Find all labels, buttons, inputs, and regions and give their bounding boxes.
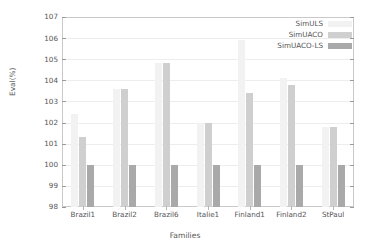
bar: [87, 165, 94, 207]
y-tick-label: 99: [18, 182, 58, 189]
legend-label: SimUACO: [289, 30, 323, 39]
x-axis-title: Families: [0, 231, 370, 240]
bar: [296, 165, 303, 207]
legend-item: SimUACO: [289, 30, 352, 39]
y-tick-label: 107: [18, 13, 58, 20]
legend-item: SimUACO-LS: [277, 41, 352, 50]
bar: [330, 127, 337, 207]
bar: [338, 165, 345, 207]
bar: [213, 165, 220, 207]
bar: [113, 89, 120, 207]
bar: [238, 40, 245, 207]
legend-swatch: [328, 21, 352, 27]
y-tick-label: 98: [18, 203, 58, 210]
y-tick-label: 101: [18, 140, 58, 147]
y-tick-mark: [62, 207, 66, 208]
y-tick-mark: [350, 207, 354, 208]
y-tick-label: 103: [18, 98, 58, 105]
bar: [129, 165, 136, 207]
bar: [205, 123, 212, 207]
legend: SimULSSimUACOSimUACO-LS: [277, 19, 352, 50]
bar: [121, 89, 128, 207]
legend-swatch: [328, 32, 352, 38]
bar: [163, 63, 170, 207]
bar: [246, 93, 253, 207]
y-tick-label: 105: [18, 56, 58, 63]
bar: [71, 114, 78, 207]
y-tick-label: 100: [18, 161, 58, 168]
legend-label: SimULS: [296, 19, 323, 28]
x-tick-label: StPaul: [303, 211, 363, 218]
y-axis-title: Eval(%): [8, 68, 17, 96]
bar: [288, 85, 295, 207]
bar: [254, 165, 261, 207]
bar: [79, 137, 86, 207]
y-tick-label: 102: [18, 119, 58, 126]
bar: [171, 165, 178, 207]
bar: [197, 123, 204, 207]
bar-chart: 9899100101102103104105106107 Eval(%) Bra…: [0, 0, 370, 252]
legend-label: SimUACO-LS: [277, 41, 323, 50]
y-tick-label: 106: [18, 35, 58, 42]
legend-item: SimULS: [296, 19, 352, 28]
bar: [280, 78, 287, 207]
legend-swatch: [328, 43, 352, 49]
bar: [155, 63, 162, 207]
bar: [322, 127, 329, 207]
y-tick-label: 104: [18, 77, 58, 84]
